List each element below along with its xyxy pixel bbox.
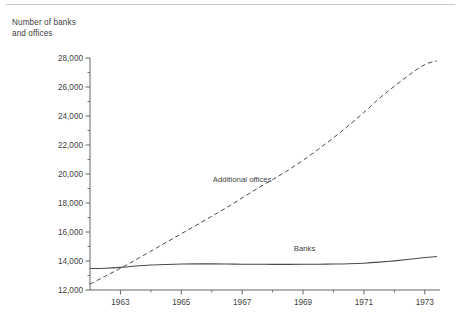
series-label-banks: Banks	[294, 244, 316, 253]
x-axis-tick-label: 1973	[416, 298, 435, 307]
x-axis-tick-label: 1969	[294, 298, 313, 307]
x-axis-tick-label: 1965	[172, 298, 191, 307]
y-axis-tick-label: 24,000	[58, 112, 83, 121]
y-axis-tick-label: 28,000	[58, 54, 83, 63]
series-line-banks	[90, 257, 437, 269]
line-chart: 12,00014,00016,00018,00020,00022,00024,0…	[0, 0, 459, 320]
y-axis-tick-label: 14,000	[58, 257, 83, 266]
chart-page: Number of banks and offices 12,00014,000…	[0, 0, 459, 320]
y-axis-tick-label: 18,000	[58, 199, 83, 208]
y-axis-tick-label: 22,000	[58, 141, 83, 150]
y-axis-tick-label: 20,000	[58, 170, 83, 179]
x-axis-tick-label: 1963	[111, 298, 130, 307]
series-label-additional-offices: Additional offices	[213, 175, 272, 184]
y-axis-tick-label: 12,000	[58, 286, 83, 295]
series-line-additional-offices	[90, 61, 437, 284]
y-axis-tick-label: 16,000	[58, 228, 83, 237]
x-axis-tick-label: 1967	[233, 298, 252, 307]
x-axis-tick-label: 1971	[355, 298, 374, 307]
y-axis-tick-label: 26,000	[58, 83, 83, 92]
